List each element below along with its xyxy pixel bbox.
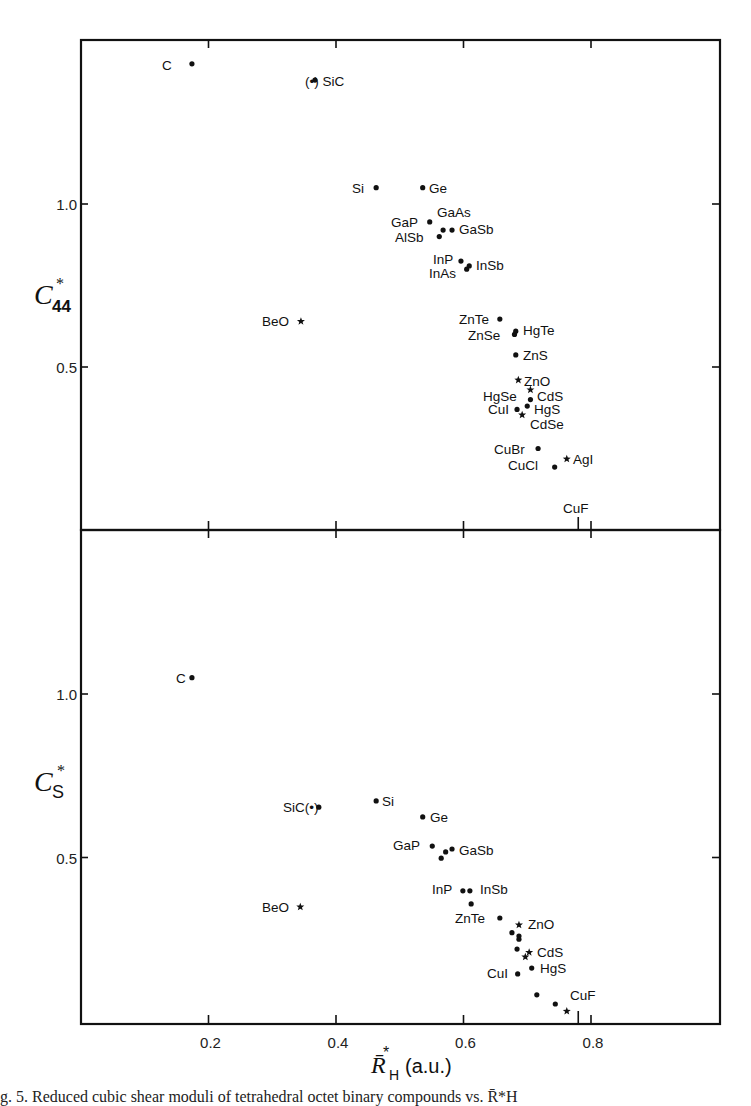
point-label: InP <box>432 882 452 897</box>
point-label: CuI <box>488 402 509 417</box>
data-point-dot <box>535 446 540 451</box>
ylabel-lower-star: * <box>57 762 65 779</box>
point-label: ZnO <box>528 917 554 932</box>
data-point-star <box>563 1007 571 1015</box>
x-tick-label: 0.6 <box>455 1034 476 1051</box>
point-label: SiC(•) <box>283 800 318 815</box>
data-point-star <box>297 317 305 325</box>
point-label: CuBr <box>494 442 525 457</box>
data-point-dot <box>467 263 472 268</box>
point-label: HgTe <box>523 323 555 338</box>
xlabel-main: R̄ <box>370 1052 386 1078</box>
data-point-star <box>518 411 526 419</box>
tick-labels: 0.51.00.51.00.20.40.60.8 <box>56 196 603 1051</box>
data-point-star <box>296 903 304 911</box>
data-point-dot <box>374 185 379 190</box>
data-point-dot <box>509 930 514 935</box>
point-label: CuCl <box>508 458 538 473</box>
point-label: CuI <box>487 966 508 981</box>
data-point-dot <box>420 814 425 819</box>
x-tick-label: 0.8 <box>583 1034 604 1051</box>
data-point-dot <box>374 798 379 803</box>
point-label: HgS <box>540 961 566 976</box>
data-point-dot <box>534 992 539 997</box>
point-label: GaAs <box>437 205 471 220</box>
point-label: BeO <box>262 900 289 915</box>
point-label: GaP <box>393 838 420 853</box>
ylabel-upper-star: * <box>56 275 64 292</box>
y-tick-label: 0.5 <box>56 359 77 376</box>
data-point-dot <box>469 901 474 906</box>
data-point-star <box>563 455 571 463</box>
point-label: GaP <box>391 215 418 230</box>
data-point-dot <box>514 407 519 412</box>
point-label: C <box>176 671 186 686</box>
data-point-dot <box>552 464 557 469</box>
data-point-dot <box>189 61 194 66</box>
point-label: CuF <box>563 501 589 516</box>
data-point-dot <box>497 915 502 920</box>
y-tick-label: 0.5 <box>56 850 77 867</box>
point-label: ZnTe <box>459 312 489 327</box>
data-point-dot <box>529 965 534 970</box>
data-point-dot <box>528 397 533 402</box>
x-tick-label: 0.4 <box>328 1034 349 1051</box>
data-point-dot <box>515 971 520 976</box>
data-point-dot <box>458 258 463 263</box>
point-label: ZnS <box>523 348 548 363</box>
data-point-dot <box>497 316 502 321</box>
point-label: GaSb <box>459 843 494 858</box>
y-tick-label: 1.0 <box>56 686 77 703</box>
data-point-dot <box>439 856 444 861</box>
xlabel-sub: H <box>389 1067 399 1083</box>
point-label: InP <box>433 252 453 267</box>
data-point-dot <box>513 329 518 334</box>
point-label: (•) SiC <box>305 74 344 89</box>
x-tick-label: 0.2 <box>200 1034 221 1051</box>
point-label: AlSb <box>395 230 424 245</box>
data-point-dot <box>189 675 194 680</box>
y-axis-label-lower: C S * <box>34 762 65 802</box>
point-label: AgI <box>573 452 593 467</box>
figure-caption: g. 5. Reduced cubic shear moduli of tetr… <box>0 1088 751 1106</box>
data-point-dot <box>460 888 465 893</box>
ylabel-lower-main: C <box>34 766 53 797</box>
point-label: Si <box>352 181 364 196</box>
ylabel-upper-sub: 44 <box>52 297 71 316</box>
y-axis-label-upper: C 44 * <box>34 275 71 316</box>
point-label: ZnTe <box>455 911 485 926</box>
point-label: Si <box>382 794 394 809</box>
figure-canvas: 0.51.00.51.00.20.40.60.8 C(•) SiCSiGeGaP… <box>0 0 751 1106</box>
data-point-dot <box>437 234 442 239</box>
plot-frame <box>81 40 720 1024</box>
point-label: CdS <box>537 945 563 960</box>
data-point-star <box>515 921 523 929</box>
point-label: ZnSe <box>468 328 500 343</box>
point-label: HgS <box>534 402 560 417</box>
data-point-dot <box>513 352 518 357</box>
lower-panel-border <box>81 530 720 1024</box>
point-label: InSb <box>476 258 504 273</box>
point-label: InSb <box>480 882 508 897</box>
data-point-dot <box>514 946 519 951</box>
point-label: ZnO <box>524 374 550 389</box>
ylabel-upper-main: C <box>34 279 53 310</box>
data-point-dot <box>525 404 530 409</box>
x-axis-label: * R̄ H (a.u.) <box>370 1044 452 1083</box>
y-tick-label: 1.0 <box>56 196 77 213</box>
data-point-star <box>525 948 533 956</box>
data-point-dot <box>443 849 448 854</box>
upper-panel-border <box>81 40 720 530</box>
data-point-star <box>514 376 522 384</box>
data-point-dot <box>441 227 446 232</box>
data-point-dot <box>427 219 432 224</box>
point-label: Ge <box>429 181 447 196</box>
point-label: C <box>162 58 172 73</box>
data-point-dot <box>420 185 425 190</box>
data-point-dot <box>467 888 472 893</box>
point-label: CuF <box>570 988 596 1003</box>
ylabel-lower-sub: S <box>52 782 64 802</box>
point-label: Ge <box>430 810 448 825</box>
data-point-dot <box>516 937 521 942</box>
point-label: InAs <box>429 266 456 281</box>
